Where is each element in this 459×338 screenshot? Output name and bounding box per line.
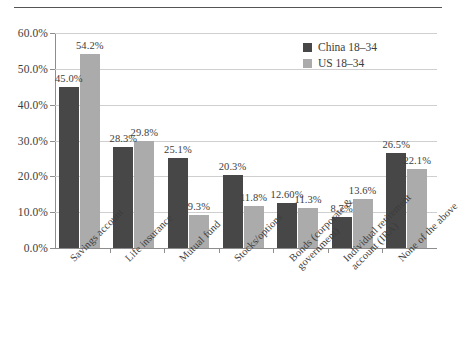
x-axis-tick xyxy=(382,248,383,253)
bar-value-label: 45.0% xyxy=(55,73,83,84)
gridline xyxy=(55,33,437,34)
legend-swatch-icon-us xyxy=(303,59,312,68)
bar-value-label: 26.5% xyxy=(382,139,410,150)
bar-value-label: 11.3% xyxy=(294,194,321,205)
bar-value-label: 54.2% xyxy=(76,40,104,51)
bar-china xyxy=(168,158,188,248)
y-axis-tick xyxy=(50,105,55,106)
y-axis-tick xyxy=(50,248,55,249)
bar-value-label: 9.3% xyxy=(188,201,210,212)
y-axis-tick-label: 0.0% xyxy=(24,242,48,254)
bar-china xyxy=(277,203,297,248)
x-axis-tick xyxy=(219,248,220,253)
bar-value-label: 25.1% xyxy=(164,144,192,155)
x-axis-tick xyxy=(164,248,165,253)
bar-value-label: 20.3% xyxy=(219,161,247,172)
bar-value-label: 13.6% xyxy=(349,185,377,196)
bar-china xyxy=(113,147,133,248)
y-axis-tick xyxy=(50,33,55,34)
y-axis-tick xyxy=(50,176,55,177)
legend-label-us: US 18–34 xyxy=(318,57,364,69)
chart-legend: China 18–34 US 18–34 xyxy=(303,40,377,72)
y-axis-tick-label: 20.0% xyxy=(18,170,48,182)
x-axis-tick xyxy=(110,248,111,253)
bar-china xyxy=(223,175,243,248)
bar-value-label: 29.8% xyxy=(131,127,159,138)
y-axis-tick-label: 40.0% xyxy=(18,99,48,111)
y-axis-tick-label: 10.0% xyxy=(18,206,48,218)
gridline xyxy=(55,105,437,106)
gridline xyxy=(55,176,437,177)
y-axis-tick-label: 30.0% xyxy=(18,135,48,147)
header-divider xyxy=(14,7,442,8)
legend-label-china: China 18–34 xyxy=(318,41,377,53)
x-axis-tick xyxy=(273,248,274,253)
y-axis-tick-label: 60.0% xyxy=(18,27,48,39)
y-axis-tick xyxy=(50,212,55,213)
legend-item-us: US 18–34 xyxy=(303,56,377,70)
y-axis-tick xyxy=(50,141,55,142)
x-axis-tick xyxy=(328,248,329,253)
gridline xyxy=(55,69,437,70)
y-axis-tick xyxy=(50,69,55,70)
bar-value-label: 22.1% xyxy=(403,155,431,166)
legend-item-china: China 18–34 xyxy=(303,40,377,54)
y-axis-tick-label: 50.0% xyxy=(18,63,48,75)
legend-swatch-icon-china xyxy=(303,43,312,52)
bar-china xyxy=(59,87,79,248)
bar-value-label: 11.8% xyxy=(240,192,267,203)
